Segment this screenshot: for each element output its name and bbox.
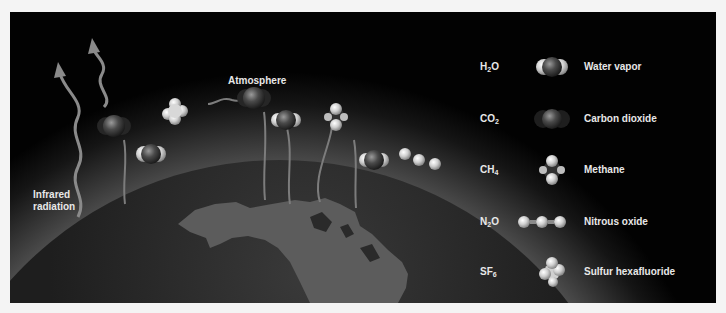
legend-name: Carbon dioxide: [584, 113, 657, 124]
legend-formula: CO2: [480, 113, 499, 125]
infrared-radiation-label: Infrared radiation: [33, 189, 75, 213]
legend-item-water-vapor: H2O Water vapor: [480, 52, 680, 82]
legend-item-carbon-dioxide: CO2 Carbon dioxide: [480, 104, 680, 134]
atmosphere-label: Atmosphere: [228, 75, 286, 87]
methane-molecule-icon: [522, 155, 582, 185]
molecule-legend: H2O Water vapor CO2 Carbon dioxide CH4: [480, 12, 710, 303]
water-molecule-icon: [522, 52, 582, 82]
infrared-label-line1: Infrared: [33, 189, 75, 201]
legend-formula: N2O: [480, 216, 499, 228]
infrared-label-line2: radiation: [33, 201, 75, 213]
legend-item-methane: CH4 Methane: [480, 155, 680, 185]
n2o-molecule-icon: [512, 207, 572, 237]
legend-formula: CH4: [480, 164, 498, 176]
co2-molecule-icon: [522, 104, 582, 134]
legend-formula: H2O: [480, 61, 499, 73]
legend-name: Methane: [584, 164, 625, 175]
greenhouse-diagram: Atmosphere Infrared radiation H2O Water …: [10, 12, 716, 303]
legend-item-nitrous-oxide: N2O Nitrous oxide: [480, 207, 680, 237]
legend-item-sulfur-hexafluoride: SF6 Sulfur hexafluoride: [480, 257, 680, 287]
sf6-molecule-icon: [522, 257, 582, 287]
arrowheads: [54, 38, 100, 78]
legend-name: Sulfur hexafluoride: [584, 266, 675, 277]
legend-name: Nitrous oxide: [584, 216, 648, 227]
legend-name: Water vapor: [584, 61, 641, 72]
legend-formula: SF6: [480, 266, 497, 278]
